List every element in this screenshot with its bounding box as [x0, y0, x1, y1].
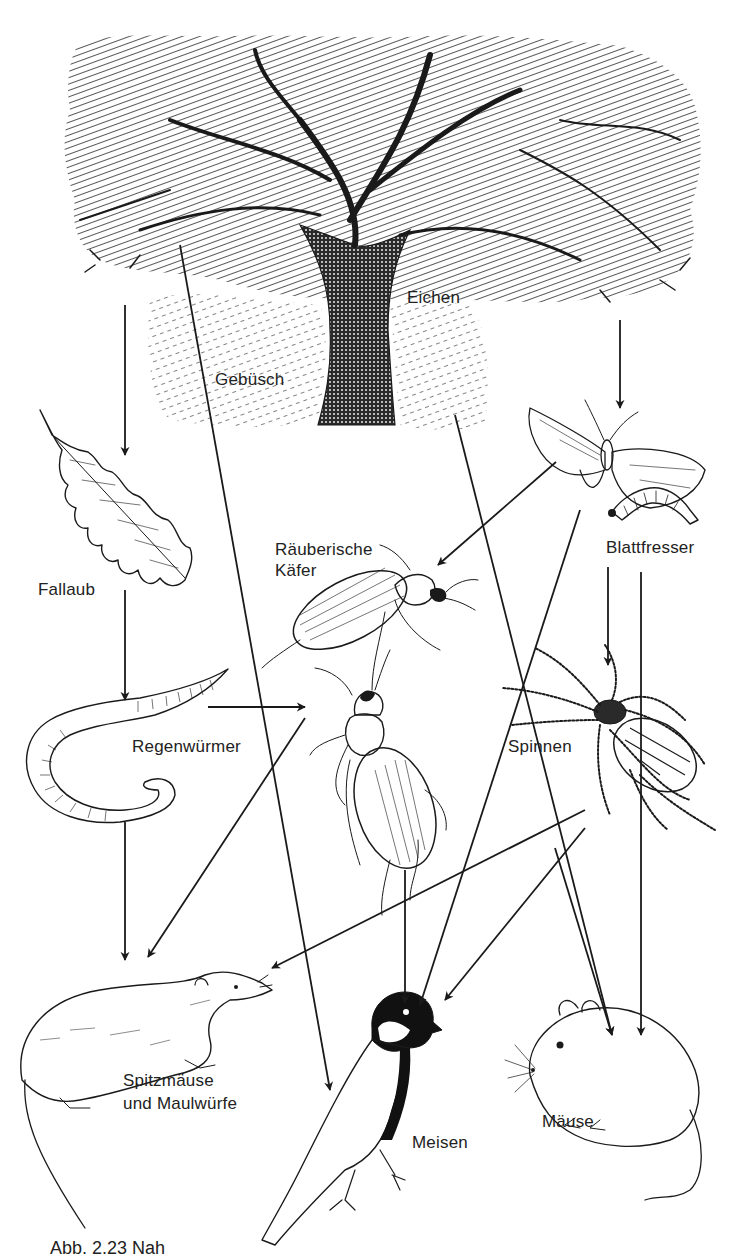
arrow-blattfresser-to-meisen	[420, 510, 580, 1005]
label-kaefer: Käfer	[275, 561, 317, 581]
arrow-spinnen-to-spitzmaeuse	[272, 810, 585, 968]
caterpillar-illustration	[608, 488, 698, 524]
arrow-blattfresser-to-raeuberische_kaefer	[438, 462, 556, 565]
label-gebuesch: Gebüsch	[215, 370, 284, 390]
label-spitzmaeuse: Spitzmäuse	[123, 1071, 214, 1091]
label-blattfresser: Blattfresser	[606, 538, 694, 558]
label-maeuse: Mäuse	[542, 1112, 594, 1132]
moth-illustration	[529, 400, 705, 508]
label-spinnen: Spinnen	[508, 737, 572, 757]
arrow-spinnen-to-meisen	[445, 828, 585, 1000]
label-eichen: Eichen	[407, 288, 460, 308]
mouse-illustration	[505, 1001, 701, 1200]
figure-caption: Abb. 2.23 Nah	[50, 1238, 165, 1258]
label-raeuberische: Räuberische	[275, 540, 373, 560]
label-regenwuermer: Regenwürmer	[132, 737, 241, 757]
oak-leaf-illustration	[40, 410, 192, 586]
arrow-spinnen-to-maeuse	[555, 848, 612, 1035]
arrow-eichen-to-maeuse	[455, 415, 612, 1035]
oak-tree-illustration	[65, 36, 701, 430]
label-meisen: Meisen	[412, 1133, 468, 1153]
ground-beetle-small-illustration	[310, 650, 450, 915]
label-fallaub: Fallaub	[38, 580, 95, 600]
label-maulwuerfe: und Maulwürfe	[123, 1094, 237, 1114]
bush-hatching	[148, 294, 325, 427]
great-tit-illustration	[262, 992, 442, 1245]
bush-hatching-right	[390, 300, 488, 430]
